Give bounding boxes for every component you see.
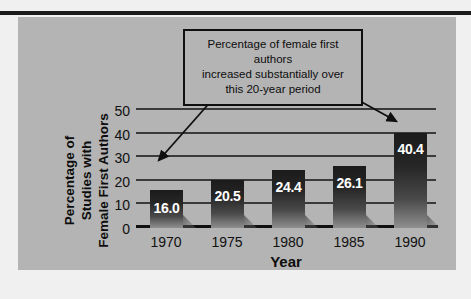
bar-value-1980: 24.4 bbox=[272, 179, 305, 195]
y-tick-label-20: 20 bbox=[90, 174, 130, 190]
bar-value-1990: 40.4 bbox=[394, 141, 427, 157]
gridline-50 bbox=[136, 108, 436, 110]
bar-shadow-1990 bbox=[427, 215, 440, 228]
top-divider-rule bbox=[0, 11, 471, 15]
gridline-30 bbox=[136, 155, 436, 157]
annotation-line-2: increased substantially over bbox=[189, 67, 357, 82]
x-tick-label-1970: 1970 bbox=[136, 234, 196, 250]
bar-value-1975: 20.5 bbox=[211, 188, 244, 204]
bar-shadow-1980 bbox=[305, 215, 318, 228]
y-tick-label-10: 10 bbox=[90, 197, 130, 213]
x-tick-label-1980: 1980 bbox=[258, 234, 318, 250]
annotation-line-3: this 20-year period bbox=[189, 82, 357, 97]
chart-panel: Percentage of Studies with Female First … bbox=[18, 17, 456, 270]
annotation-callout: Percentage of female first authors incre… bbox=[183, 29, 363, 106]
annotation-line-1: Percentage of female first authors bbox=[189, 37, 357, 67]
y-tick-label-30: 30 bbox=[90, 150, 130, 166]
x-axis-title: Year bbox=[136, 253, 436, 270]
gridline-40 bbox=[136, 132, 436, 134]
x-tick-label-1975: 1975 bbox=[197, 234, 257, 250]
plot-area: 0 10 20 30 40 50 16.0 20.5 24.4 bbox=[136, 110, 436, 228]
x-tick-label-1990: 1990 bbox=[380, 234, 440, 250]
x-tick-label-1985: 1985 bbox=[319, 234, 379, 250]
y-tick-label-0: 0 bbox=[90, 221, 130, 237]
bar-shadow-1985 bbox=[366, 215, 379, 228]
bar-value-1985: 26.1 bbox=[333, 175, 366, 191]
bar-value-1970: 16.0 bbox=[150, 200, 183, 216]
bar-shadow-1970 bbox=[183, 215, 196, 228]
chart-screenshot: Percentage of Studies with Female First … bbox=[0, 0, 471, 299]
y-tick-label-50: 50 bbox=[90, 103, 130, 119]
y-tick-label-40: 40 bbox=[90, 127, 130, 143]
y-axis-title-line-1: Percentage of bbox=[61, 106, 78, 256]
bar-shadow-1975 bbox=[244, 215, 257, 228]
